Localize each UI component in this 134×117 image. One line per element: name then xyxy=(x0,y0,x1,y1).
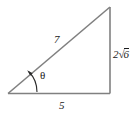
triangle-hypotenuse-line xyxy=(8,7,110,94)
angle-theta-label: θ xyxy=(40,70,45,81)
hypotenuse-label: 7 xyxy=(54,34,60,45)
radical-group: √6 xyxy=(119,48,130,61)
height-label: 2√6 xyxy=(113,48,129,61)
right-triangle-figure: 7 5 2√6 θ xyxy=(0,0,134,117)
base-label: 5 xyxy=(59,100,65,111)
radicand-value: 6 xyxy=(124,48,130,61)
